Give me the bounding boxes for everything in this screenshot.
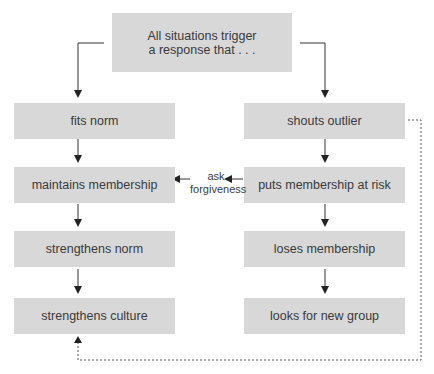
node-loses-membership: loses membership	[244, 231, 405, 267]
node-looks-for-new-group: looks for new group	[244, 298, 405, 334]
node-strengthens-norm: strengthens norm	[14, 231, 175, 267]
node-maintains-membership: maintains membership	[14, 167, 175, 203]
node-fits-norm: fits norm	[14, 103, 175, 139]
node-puts-membership-at-risk: puts membership at risk	[244, 167, 405, 203]
feedback-arrowhead	[74, 336, 82, 343]
ask-forgiveness-label: ask forgiveness	[190, 170, 242, 196]
node-shouts-outlier: shouts outlier	[244, 103, 405, 139]
root-node: All situations trigger a response that .…	[112, 13, 292, 72]
node-strengthens-culture: strengthens culture	[14, 298, 175, 334]
root-to-left-arrow	[78, 43, 104, 94]
root-to-right-arrow	[300, 43, 325, 94]
